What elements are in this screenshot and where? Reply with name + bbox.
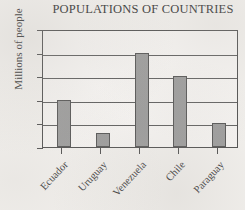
bar-chile (173, 76, 187, 147)
chart-title: POPULATIONS OF COUNTRIES (44, 2, 242, 17)
bar-venezuela (135, 53, 149, 147)
x-tick-mark-0 (61, 148, 62, 154)
y-tick-mark-0 (37, 148, 43, 149)
bar-paraguay (212, 123, 226, 147)
bar-chart: POPULATIONS OF COUNTRIES Millions of peo… (0, 0, 245, 210)
y-axis-title: Millions of people (12, 0, 24, 109)
x-tick-mark-4 (217, 148, 218, 154)
bar-uruguay (96, 133, 110, 147)
x-tick-mark-3 (178, 148, 179, 154)
bar-ecuador (57, 100, 71, 147)
plot-area (42, 30, 238, 148)
x-tick-mark-1 (100, 148, 101, 154)
x-tick-mark-2 (139, 148, 140, 154)
